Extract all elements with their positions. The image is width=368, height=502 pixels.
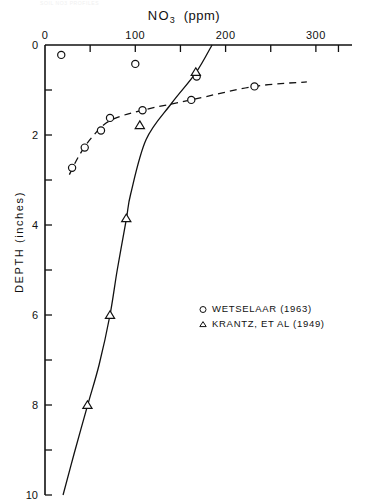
y-tick-label: 8 [32,399,38,411]
data-point-circle [81,144,88,151]
data-point-triangle [105,311,114,319]
data-point-circle [97,127,104,134]
data-point-circle [106,114,113,121]
triangle-marker-icon [197,318,211,330]
axes [45,45,352,495]
data-point-circle [251,83,258,90]
y-tick-label: 0 [32,39,38,51]
series-data-points [58,51,258,408]
chart-plot-area: 0100200300 0246810 [0,0,368,502]
series-curves [63,45,307,495]
chart-legend: WETSELAAR (1963) KRANTZ, ET AL (1949) [197,301,325,331]
y-tick-label: 10 [26,489,38,501]
data-point-circle [188,96,195,103]
data-point-circle [139,107,146,114]
legend-item-krantz: KRANTZ, ET AL (1949) [197,316,325,331]
legend-item-wetselaar: WETSELAAR (1963) [197,301,325,316]
data-point-triangle [135,121,144,129]
y-axis-tick-labels: 0246810 [26,39,38,501]
x-tick-label: 300 [306,29,326,41]
x-tick-label: 0 [42,29,49,41]
circle-marker-icon [197,303,211,315]
y-axis-ticks [45,90,52,495]
series-curve-1 [69,82,306,175]
x-axis-ticks [90,45,338,52]
x-tick-label: 200 [216,29,236,41]
x-axis-tick-labels: 0100200300 [42,29,326,41]
legend-label-wetselaar: WETSELAAR (1963) [211,301,312,316]
data-point-circle [68,164,75,171]
x-tick-label: 100 [125,29,145,41]
legend-label-krantz: KRANTZ, ET AL (1949) [211,316,325,331]
data-point-triangle [122,214,131,222]
y-tick-label: 6 [32,309,38,321]
y-tick-label: 2 [32,129,38,141]
y-tick-label: 4 [32,219,38,231]
data-point-triangle [83,401,92,409]
data-point-circle [58,51,65,58]
series-curve-2 [63,45,212,495]
data-point-circle [132,60,139,67]
